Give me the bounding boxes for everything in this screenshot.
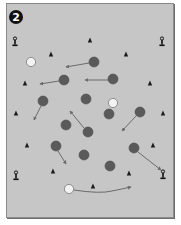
dark-player-marker — [83, 127, 93, 137]
cone-icon — [151, 143, 155, 148]
movement-arrow — [122, 116, 136, 131]
pole-icon — [160, 170, 165, 179]
dark-team-players — [38, 57, 145, 171]
movement-arrow — [138, 152, 161, 170]
drill-diagram: 2 — [0, 0, 181, 225]
cone-icon — [25, 143, 29, 148]
dark-player-marker — [104, 109, 114, 119]
dark-player-marker — [61, 120, 71, 130]
dark-player-marker — [135, 107, 145, 117]
cone-icon — [148, 81, 152, 86]
white-player-marker — [26, 57, 35, 66]
dark-player-marker — [105, 161, 115, 171]
white-player-marker — [108, 98, 117, 107]
dark-player-marker — [108, 74, 118, 84]
cone-icon — [124, 52, 128, 57]
cone-icon — [14, 111, 18, 116]
dribble-path-arrow — [74, 187, 131, 192]
dark-player-marker — [38, 96, 48, 106]
cone-icon — [23, 81, 27, 86]
movement-arrow — [66, 63, 89, 67]
dark-player-marker — [89, 57, 99, 67]
dark-player-marker — [79, 150, 89, 160]
cone-icon — [127, 171, 131, 176]
pole-icon — [12, 37, 17, 46]
pole-icon — [159, 37, 164, 46]
cone-icon — [91, 184, 95, 189]
dark-player-marker — [59, 75, 69, 85]
dark-player-marker — [129, 143, 139, 153]
dark-player-marker — [51, 141, 61, 151]
cone-icon — [161, 111, 165, 116]
dark-player-marker — [81, 94, 91, 104]
white-team-players — [26, 57, 117, 193]
badge-number: 2 — [12, 11, 20, 24]
white-player-marker — [64, 184, 73, 193]
movement-arrow — [40, 81, 59, 84]
step-badge: 2 — [9, 10, 23, 24]
pole-icon — [13, 171, 18, 180]
movement-arrow — [34, 106, 41, 120]
movement-arrow — [58, 151, 66, 164]
dribble-arrow — [74, 187, 131, 192]
movement-arrow — [70, 111, 84, 128]
cone-icon — [49, 52, 53, 57]
cone-icon — [51, 169, 55, 174]
cone-icon — [88, 38, 92, 43]
